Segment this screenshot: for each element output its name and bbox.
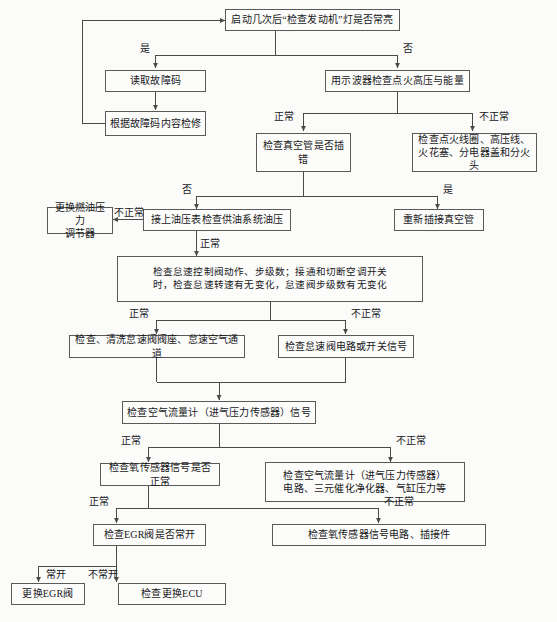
edge-label-yes-dtc: 是 <box>140 44 150 54</box>
node-read-trouble-code[interactable]: 读取故障码 <box>105 70 206 92</box>
edge-label-no-dtc: 否 <box>403 44 413 54</box>
edge-label-oxygen-normal: 正常 <box>89 497 109 507</box>
edge-label-egr-open: 常开 <box>46 570 66 580</box>
node-oscilloscope-ignition[interactable]: 用示波器检查点火高压与能量 <box>325 70 470 92</box>
edge-label-fuel-normal: 正常 <box>200 239 220 249</box>
edge-label-ignition-normal: 正常 <box>274 112 294 122</box>
edge-label-airflow-normal: 正常 <box>121 436 141 446</box>
node-check-engine-lamp[interactable]: 启动几次后“检查发动机”灯是否常亮 <box>225 9 400 31</box>
node-replace-egr-valve[interactable]: 更换EGR阀 <box>11 583 85 605</box>
edge-label-vacuum-yes: 是 <box>443 185 453 195</box>
node-check-air-flow-meter-signal[interactable]: 检查空气流量计（进气压力传感器）信号 <box>122 401 316 424</box>
node-check-replace-ecu[interactable]: 检查更换ECU <box>118 583 226 605</box>
node-check-oxygen-sensor-signal[interactable]: 检查氧传感器信号是否正常 <box>100 463 220 486</box>
edge-label-idle-normal: 正常 <box>129 309 149 319</box>
edge-label-idle-abnormal: 不正常 <box>351 309 381 319</box>
node-clean-idle-valve-seat[interactable]: 检查、清洗怠速阀阀座、怠速空气通道 <box>69 335 245 358</box>
edge-label-egr-not-open: 不常开 <box>88 570 118 580</box>
flowchart-canvas: 启动几次后“检查发动机”灯是否常亮 读取故障码 根据故障码内容检修 用示波器检查… <box>0 0 557 622</box>
node-check-air-flow-meter-circuit[interactable]: 检查空气流量计（进气压力传感器） 电路、三元催化净化器、气缸压力等 <box>265 462 465 502</box>
edge-label-fuel-abnormal: 不正常 <box>114 208 144 218</box>
node-reconnect-vacuum-pipe[interactable]: 重新插接真空管 <box>394 209 484 231</box>
node-check-idle-valve-action[interactable]: 检查怠速控制阀动作、步级数；接通和切断空调开关 时，检查怠速转速有无变化，怠速阀… <box>117 256 423 302</box>
edge-label-vacuum-no: 否 <box>182 185 192 195</box>
node-check-ignition-parts[interactable]: 检查点火线圈、高压线、 火花塞、分电器盖和分火头 <box>412 133 537 172</box>
node-repair-by-code[interactable]: 根据故障码内容检修 <box>105 111 206 136</box>
node-check-oxygen-sensor-circuit[interactable]: 检查氧传感器信号电路、插接件 <box>272 524 486 546</box>
edge-label-ignition-abnormal: 不正常 <box>479 112 509 122</box>
node-replace-fuel-pressure-regulator[interactable]: 更换燃油压力 调节器 <box>47 207 113 234</box>
edge-label-oxygen-abnormal: 不正常 <box>384 497 414 507</box>
node-check-idle-valve-circuit[interactable]: 检查怠速阀电路或开关信号 <box>278 335 414 358</box>
node-check-fuel-pressure[interactable]: 接上油压表检查供油系统油压 <box>143 209 291 231</box>
edge-label-airflow-abnormal: 不正常 <box>396 436 426 446</box>
node-check-vacuum-pipe[interactable]: 检查真空管是否插错 <box>256 133 351 172</box>
node-check-egr-valve[interactable]: 检查EGR阀是否常开 <box>93 524 206 546</box>
